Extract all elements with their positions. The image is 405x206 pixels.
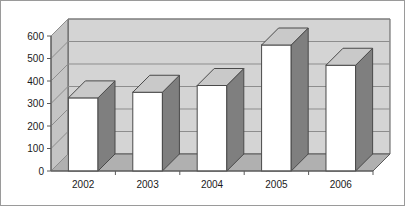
bar-2002 — [68, 81, 115, 171]
x-tick-label: 2005 — [265, 179, 288, 190]
bar-front-face — [326, 65, 356, 171]
x-tick-label: 2004 — [201, 179, 224, 190]
x-tick-label: 2003 — [136, 179, 159, 190]
y-tick-label: 600 — [27, 31, 44, 42]
bar-2005 — [262, 28, 309, 171]
bar-front-face — [133, 92, 163, 171]
y-tick-label: 400 — [27, 76, 44, 87]
y-tick-label: 0 — [38, 166, 44, 177]
y-axis-ticks: 0100200300400500600 — [27, 31, 51, 177]
bar-side-face — [291, 28, 308, 171]
bar-side-face — [356, 48, 373, 171]
x-tick-label: 2002 — [72, 179, 95, 190]
bar-front-face — [197, 86, 227, 172]
bar-chart-3d: 0100200300400500600 20022003200420052006 — [1, 1, 405, 206]
bar-front-face — [68, 98, 98, 171]
bar-side-face — [227, 69, 244, 172]
bar-front-face — [262, 45, 292, 171]
y-tick-label: 200 — [27, 121, 44, 132]
bar-2004 — [197, 69, 244, 172]
bar-2003 — [133, 75, 180, 171]
chart-figure: 0100200300400500600 20022003200420052006 — [0, 0, 405, 206]
y-tick-label: 500 — [27, 53, 44, 64]
y-tick-label: 100 — [27, 143, 44, 154]
y-tick-label: 300 — [27, 98, 44, 109]
bar-2006 — [326, 48, 373, 171]
x-axis-ticks: 20022003200420052006 — [72, 171, 373, 190]
x-tick-label: 2006 — [330, 179, 353, 190]
